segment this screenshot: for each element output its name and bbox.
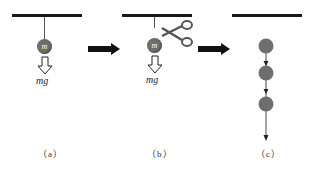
ball-a: m — [37, 39, 52, 54]
caption-b: （b） — [147, 147, 173, 160]
force-label-b: mg — [146, 74, 158, 85]
scissors-icon — [160, 20, 194, 48]
gravity-arrow-b-icon — [147, 56, 163, 74]
ball-c-3 — [259, 97, 274, 112]
ceiling-a — [12, 14, 82, 17]
ball-c-2 — [259, 66, 274, 81]
caption-c: （c） — [256, 147, 281, 160]
falling-ball-sequence — [256, 38, 276, 143]
string-b-cut — [154, 17, 155, 28]
transition-arrow-2-icon — [198, 43, 230, 55]
force-label-a: mg — [36, 75, 48, 86]
gravity-arrow-a-icon — [37, 57, 53, 75]
transition-arrow-1-icon — [88, 43, 120, 55]
ceiling-c — [232, 14, 302, 17]
string-a — [44, 17, 45, 40]
caption-a: （a） — [38, 147, 63, 160]
ball-c-1 — [259, 39, 274, 54]
ceiling-b — [122, 14, 192, 17]
